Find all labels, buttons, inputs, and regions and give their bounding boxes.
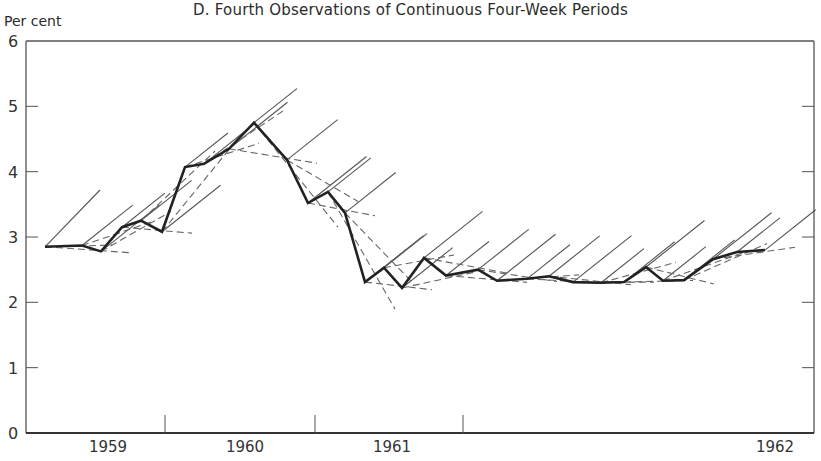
year-dividers (165, 415, 463, 433)
projection-lines (45, 89, 816, 288)
year-label: 1959 (89, 438, 127, 456)
y-tick-label: 3 (8, 228, 18, 247)
y-axis-ticks (26, 106, 814, 367)
y-tick-label: 6 (8, 32, 18, 51)
year-label: 1960 (226, 438, 264, 456)
year-label: 1962 (756, 438, 794, 456)
plot-frame (26, 41, 814, 433)
y-axis-tick-labels: 0123456 (8, 32, 18, 443)
year-label: 1961 (373, 438, 411, 456)
x-axis-year-labels: 1959196019611962 (89, 438, 794, 456)
plot-area: 0123456 1959196019611962 (0, 0, 821, 461)
y-tick-label: 2 (8, 293, 18, 312)
y-tick-label: 4 (8, 163, 18, 182)
y-tick-label: 0 (8, 424, 18, 443)
y-tick-label: 1 (8, 359, 18, 378)
y-tick-label: 5 (8, 97, 18, 116)
observed-series-line (45, 123, 765, 288)
